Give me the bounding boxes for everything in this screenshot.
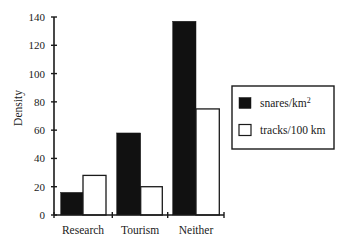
legend-label-snares: snares/km2 <box>260 96 311 109</box>
y-tick-label: 140 <box>29 11 46 23</box>
legend-label-tracks: tracks/100 km <box>260 124 326 136</box>
legend-box <box>232 86 334 149</box>
bar-research-snares <box>61 192 83 215</box>
y-tick-label: 40 <box>34 152 46 164</box>
legend-swatch-snares <box>239 98 251 109</box>
bar-group-neither <box>173 21 220 215</box>
bars <box>61 21 220 215</box>
x-category-label: Research <box>62 224 104 236</box>
bar-research-tracks <box>83 175 106 215</box>
y-axis: 020406080100120140 <box>29 11 58 221</box>
x-category-label: Neither <box>179 224 214 236</box>
y-tick-label: 80 <box>34 96 46 108</box>
bar-group-tourism <box>117 133 163 215</box>
bar-neither-snares <box>173 21 196 215</box>
y-tick-label: 0 <box>40 209 46 221</box>
legend: snares/km2tracks/100 km <box>232 86 334 149</box>
bar-tourism-tracks <box>141 187 163 215</box>
x-category-label: Tourism <box>121 224 159 236</box>
bar-chart: 020406080100120140 ResearchTourismNeithe… <box>0 0 346 249</box>
y-tick-label: 20 <box>34 181 46 193</box>
y-tick-label: 100 <box>29 68 46 80</box>
bar-group-research <box>61 175 106 215</box>
y-axis-title: Density <box>12 90 25 126</box>
x-axis: ResearchTourismNeither <box>54 212 224 236</box>
bar-tourism-snares <box>117 133 141 215</box>
y-tick-label: 120 <box>29 39 46 51</box>
bar-neither-tracks <box>196 109 219 215</box>
legend-swatch-tracks <box>239 125 251 136</box>
y-tick-label: 60 <box>34 124 46 136</box>
